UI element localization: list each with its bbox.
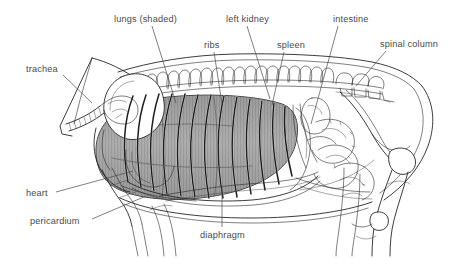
label-text-ribs: ribs [204,40,220,50]
label-text-left-kidney: left kidney [226,14,269,24]
label-text-pericardium: pericardium [30,216,80,226]
label-text-diaphragm: diaphragm [200,230,245,240]
label-text-spleen: spleen [277,40,305,50]
anatomy-figure: trachea lungs (shaded) ribs left kidney … [0,0,465,258]
label-text-spinal-column: spinal column [380,39,438,49]
label-text-heart: heart [26,188,48,198]
label-text-intestine: intestine [333,14,369,24]
label-text-trachea: trachea [26,64,58,74]
label-text-lungs-shaded: lungs (shaded) [114,14,177,24]
